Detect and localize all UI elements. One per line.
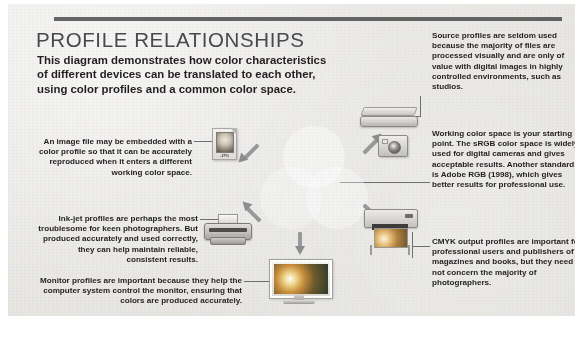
caption-working-color-space: Working color space is your starting poi… [432, 129, 575, 190]
leader-line-image-file [194, 141, 214, 142]
inkjet-printer-icon [204, 214, 250, 246]
scanner-icon [360, 107, 416, 129]
caption-inkjet-profiles: Ink-jet profiles are perhaps the most tr… [36, 214, 198, 265]
arrow-to-monitor [294, 232, 306, 258]
scanner-lid [360, 107, 417, 116]
image-file-icon: .JPG [212, 128, 237, 160]
venn-circle-right [306, 167, 368, 229]
camera-flash [382, 139, 388, 144]
camera-icon [378, 135, 408, 157]
caption-monitor-profiles: Monitor profiles are important because t… [36, 276, 242, 307]
cmyk-press-icon [364, 209, 416, 255]
file-thumbnail [216, 132, 234, 153]
file-format-label: .JPG [215, 154, 234, 158]
monitor-stand-base [283, 300, 315, 304]
press-leg-right [408, 245, 410, 255]
monitor-screen [270, 260, 332, 298]
page-subtitle: This diagram demonstrates how color char… [37, 53, 337, 96]
caption-cmyk-output: CMYK output profiles are important for p… [432, 237, 575, 288]
leader-line-source-vertical [420, 96, 421, 116]
camera-lens [388, 141, 401, 154]
page-title: PROFILE RELATIONSHIPS [36, 28, 305, 52]
monitor-displayed-image [274, 264, 328, 294]
color-space-venn-diagram [260, 126, 368, 231]
caption-source-profiles: Source profiles are seldom used because … [432, 31, 575, 92]
venn-circles-group [260, 126, 368, 231]
press-leg-left [370, 245, 372, 255]
caption-image-file: An image file may be embedded with a col… [36, 137, 192, 178]
page-canvas: PROFILE RELATIONSHIPS This diagram demon… [0, 0, 584, 337]
press-printed-sheet [374, 228, 408, 248]
monitor-icon [270, 260, 328, 308]
scanner-base [360, 116, 418, 127]
printer-tray [210, 237, 246, 245]
header-rule [54, 17, 562, 21]
diagram-panel: PROFILE RELATIONSHIPS This diagram demon… [8, 4, 575, 316]
leader-line-monitor [244, 281, 272, 282]
